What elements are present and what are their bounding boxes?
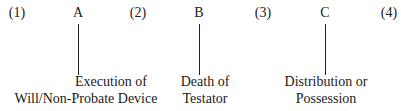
- period-label-2: (2): [130, 5, 146, 21]
- event-a-caption-line2: Will/Non-Probate Device: [15, 91, 158, 107]
- event-a-caption-line1: Execution of: [75, 74, 147, 90]
- event-b-connector: [199, 24, 200, 75]
- event-c-caption-line2: Possession: [296, 91, 357, 107]
- event-c-connector: [325, 24, 326, 75]
- event-marker-c: C: [320, 5, 329, 21]
- period-label-3: (3): [255, 5, 271, 21]
- event-b-caption-line1: Death of: [181, 74, 230, 90]
- event-b-caption-line2: Testator: [183, 91, 228, 107]
- event-marker-b: B: [194, 5, 203, 21]
- event-a-connector: [78, 24, 79, 75]
- period-label-1: (1): [9, 5, 25, 21]
- period-label-4: (4): [381, 5, 397, 21]
- event-c-caption-line1: Distribution or: [285, 74, 368, 90]
- event-marker-a: A: [73, 5, 83, 21]
